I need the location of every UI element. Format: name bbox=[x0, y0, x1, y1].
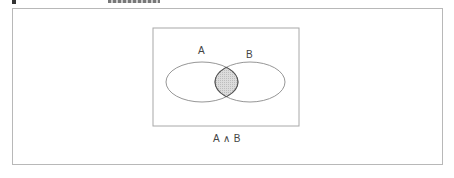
venn-diagram bbox=[0, 0, 454, 178]
diagram-caption: A ∧ B bbox=[0, 133, 454, 144]
set-a-label: A bbox=[198, 45, 205, 56]
set-b-label: B bbox=[246, 49, 253, 60]
